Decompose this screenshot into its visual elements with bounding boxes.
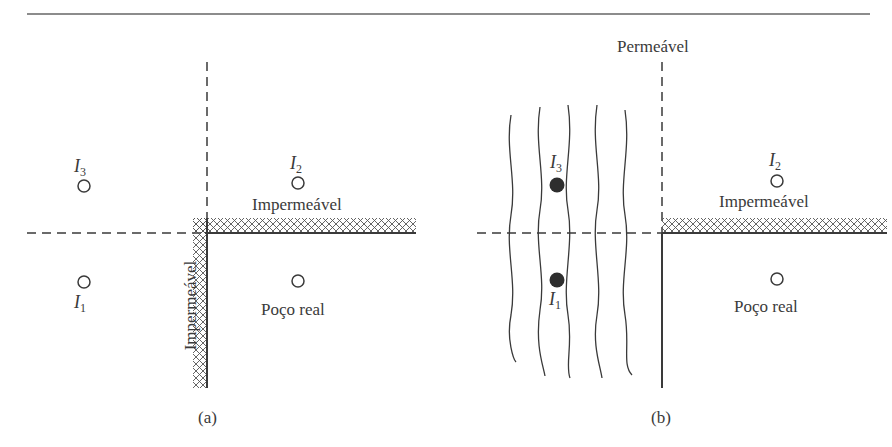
wavy-line-4 (595, 105, 602, 378)
a-caption: (a) (198, 409, 217, 426)
b-well-I3-filled-circle (550, 178, 565, 193)
a-horizontal-hatch (193, 218, 416, 233)
b-wavy-lines (509, 105, 632, 378)
b-label-I2: I2 (769, 151, 781, 172)
a-well-I3-open-circle (78, 180, 90, 192)
b-label-permeable: Permeável (617, 38, 689, 55)
wavy-line-3 (566, 105, 570, 378)
figure-canvas (0, 0, 892, 447)
a-label-impermeable-horizontal: Impermeável (252, 196, 342, 213)
b-label-impermeable-horizontal: Impermeável (719, 193, 809, 210)
panel-a (27, 62, 416, 388)
panel-b (477, 62, 887, 388)
b-real-well-open-circle (771, 273, 783, 285)
b-label-I1: I1 (549, 290, 561, 311)
a-label-I2: I2 (290, 154, 302, 175)
a-well-I2-open-circle (292, 177, 304, 189)
wavy-line-1 (509, 115, 516, 362)
wavy-line-5 (623, 110, 632, 375)
a-well-I1-open-circle (78, 276, 90, 288)
b-label-real-well: Poço real (734, 298, 798, 315)
a-label-real-well: Poço real (261, 301, 325, 318)
b-horizontal-hatch (662, 218, 887, 233)
wavy-line-2 (538, 107, 545, 376)
a-label-I3: I3 (74, 157, 86, 178)
b-well-I1-filled-circle (550, 273, 565, 288)
a-label-impermeable-vertical: Impermeável (182, 256, 199, 356)
b-well-I2-open-circle (771, 175, 783, 187)
a-label-I1: I1 (74, 293, 86, 314)
a-real-well-open-circle (292, 275, 304, 287)
b-label-I3: I3 (550, 153, 562, 174)
b-caption: (b) (651, 409, 671, 426)
